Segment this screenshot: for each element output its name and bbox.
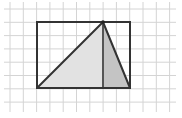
geometry-diagram	[0, 0, 182, 118]
grid-figure	[0, 0, 182, 118]
apex-point	[101, 20, 105, 24]
